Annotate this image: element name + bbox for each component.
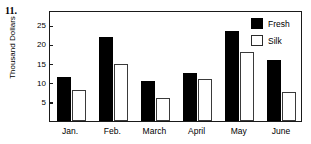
bar-march-fresh — [141, 81, 155, 121]
y-axis-tick-mark — [49, 45, 53, 46]
y-axis-tick-label: 10 — [30, 80, 46, 88]
y-axis-tick-mark — [49, 102, 53, 103]
bar-april-fresh — [183, 73, 197, 121]
y-axis-tick-mark — [49, 64, 53, 65]
bar-feb-silk — [114, 64, 128, 121]
y-axis-tick-labels: 510152025 — [29, 0, 46, 144]
bar-april-silk — [198, 79, 212, 121]
x-axis-tick-label: June — [251, 126, 311, 136]
bar-feb-fresh — [99, 37, 113, 121]
bar-march-silk — [156, 98, 170, 121]
bar-june-fresh — [267, 60, 281, 121]
legend-label-silk: Silk — [268, 36, 282, 46]
y-axis-tick-mark — [49, 26, 53, 27]
y-axis-tick-label: 25 — [30, 22, 46, 30]
legend-item-fresh: Fresh — [251, 16, 299, 31]
chart-legend: Fresh Silk — [251, 16, 299, 50]
y-axis-title: Thousand Dollars — [8, 12, 17, 84]
bar-june-silk — [282, 92, 296, 121]
y-axis-tick-label: 20 — [30, 41, 46, 49]
bar-may-silk — [240, 52, 254, 121]
bar-may-fresh — [225, 31, 239, 121]
legend-swatch-silk-icon — [251, 35, 263, 46]
legend-swatch-fresh-icon — [251, 18, 263, 29]
bar-jan-fresh — [57, 77, 71, 121]
legend-item-silk: Silk — [251, 33, 299, 48]
bar-jan-silk — [72, 90, 86, 121]
bar-chart-figure: 11. Thousand Dollars 510152025 Fresh Sil… — [0, 0, 311, 144]
y-axis-tick-label: 15 — [30, 61, 46, 69]
y-axis-tick-mark — [49, 83, 53, 84]
legend-label-fresh: Fresh — [268, 19, 290, 29]
y-axis-tick-label: 5 — [30, 99, 46, 107]
